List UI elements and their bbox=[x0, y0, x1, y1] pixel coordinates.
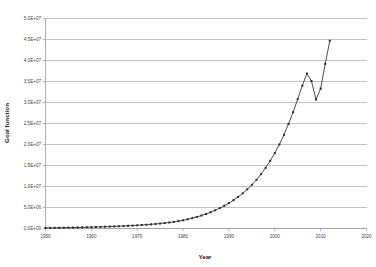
y-tick-label: 1.0E+07 bbox=[24, 184, 42, 189]
data-point-marker bbox=[187, 218, 189, 220]
data-point-marker bbox=[205, 213, 207, 215]
y-axis-tick-labels: 0.0E+005.0E+061.0E+071.5E+072.0E+072.5E+… bbox=[24, 16, 42, 231]
axes bbox=[43, 19, 367, 232]
data-point-marker bbox=[255, 179, 257, 181]
data-point-marker bbox=[228, 202, 230, 204]
x-tick-label: 1960 bbox=[86, 234, 97, 239]
gridlines bbox=[46, 19, 367, 229]
data-point-marker bbox=[301, 85, 303, 87]
data-point-marker bbox=[90, 226, 92, 228]
data-point-marker bbox=[63, 227, 65, 229]
goal-function-chart: 0.0E+005.0E+061.0E+071.5E+072.0E+072.5E+… bbox=[0, 0, 376, 267]
x-tick-label: 1980 bbox=[178, 234, 189, 239]
data-point-marker bbox=[283, 134, 285, 136]
data-point-marker bbox=[219, 207, 221, 209]
data-point-marker bbox=[324, 63, 326, 65]
y-tick-label: 5.0E+06 bbox=[24, 205, 42, 210]
data-point-marker bbox=[274, 152, 276, 154]
data-point-marker bbox=[246, 188, 248, 190]
y-tick-label: 2.0E+07 bbox=[24, 142, 42, 147]
data-point-marker bbox=[242, 192, 244, 194]
x-tick-label: 2000 bbox=[270, 234, 281, 239]
data-point-marker bbox=[113, 225, 115, 227]
data-point-marker bbox=[196, 216, 198, 218]
data-point-marker bbox=[306, 73, 308, 75]
y-tick-label: 3.5E+07 bbox=[24, 79, 42, 84]
x-axis-tick-labels: 19501960197019801990200020102020 bbox=[40, 234, 372, 239]
data-point-marker bbox=[269, 160, 271, 162]
data-point-marker bbox=[104, 226, 106, 228]
data-point-marker bbox=[315, 99, 317, 101]
data-point-marker bbox=[260, 173, 262, 175]
data-point-marker bbox=[320, 88, 322, 90]
data-point-marker bbox=[223, 205, 225, 207]
data-point-marker bbox=[54, 227, 56, 229]
y-tick-label: 0.0E+00 bbox=[24, 226, 42, 231]
data-point-marker bbox=[310, 80, 312, 82]
y-tick-label: 5.0E+07 bbox=[24, 16, 42, 21]
data-point-marker bbox=[168, 221, 170, 223]
data-point-marker bbox=[292, 111, 294, 113]
data-point-marker bbox=[145, 224, 147, 226]
x-axis-title: Year bbox=[198, 253, 212, 260]
x-tick-label: 2020 bbox=[361, 234, 372, 239]
data-point-marker bbox=[237, 196, 239, 198]
y-tick-label: 4.0E+07 bbox=[24, 58, 42, 63]
x-tick-label: 1970 bbox=[132, 234, 143, 239]
data-point-marker bbox=[173, 221, 175, 223]
data-point-marker bbox=[200, 215, 202, 217]
data-point-marker bbox=[77, 226, 79, 228]
y-tick-label: 1.5E+07 bbox=[24, 163, 42, 168]
chart-container: 0.0E+005.0E+061.0E+071.5E+072.0E+072.5E+… bbox=[0, 0, 376, 267]
data-point-marker bbox=[132, 225, 134, 227]
data-point-marker bbox=[329, 40, 331, 42]
data-point-marker bbox=[109, 226, 111, 228]
data-point-marker bbox=[72, 227, 74, 229]
x-tick-label: 2010 bbox=[316, 234, 327, 239]
y-tick-label: 4.5E+07 bbox=[24, 37, 42, 42]
data-point-marker bbox=[141, 224, 143, 226]
data-point-marker bbox=[86, 226, 88, 228]
data-point-marker bbox=[100, 226, 102, 228]
data-point-marker bbox=[150, 223, 152, 225]
y-tick-label: 2.5E+07 bbox=[24, 121, 42, 126]
data-point-marker bbox=[233, 199, 235, 201]
series-line-goal-function bbox=[46, 41, 330, 228]
x-tick-label: 1990 bbox=[224, 234, 235, 239]
data-point-marker bbox=[58, 227, 60, 229]
data-point-marker bbox=[210, 211, 212, 213]
data-point-marker bbox=[67, 227, 69, 229]
data-point-marker bbox=[45, 227, 47, 229]
data-point-marker bbox=[95, 226, 97, 228]
data-point-marker bbox=[155, 223, 157, 225]
x-tick-label: 1950 bbox=[40, 234, 51, 239]
data-point-marker bbox=[159, 223, 161, 225]
data-point-marker bbox=[182, 219, 184, 221]
data-point-marker bbox=[288, 123, 290, 125]
data-point-marker bbox=[177, 220, 179, 222]
data-point-marker bbox=[265, 167, 267, 169]
data-point-marker bbox=[297, 98, 299, 100]
data-point-marker bbox=[164, 222, 166, 224]
data-point-marker bbox=[191, 217, 193, 219]
data-point-marker bbox=[214, 209, 216, 211]
data-point-marker bbox=[49, 227, 51, 229]
data-point-marker bbox=[251, 184, 253, 186]
data-point-marker bbox=[118, 225, 120, 227]
data-point-marker bbox=[136, 224, 138, 226]
y-axis-title: Goal function bbox=[3, 103, 10, 143]
data-point-marker bbox=[127, 225, 129, 227]
data-point-marker bbox=[81, 226, 83, 228]
data-series-goal-function bbox=[45, 40, 331, 229]
y-tick-label: 3.0E+07 bbox=[24, 100, 42, 105]
data-point-marker bbox=[122, 225, 124, 227]
data-point-marker bbox=[278, 144, 280, 146]
